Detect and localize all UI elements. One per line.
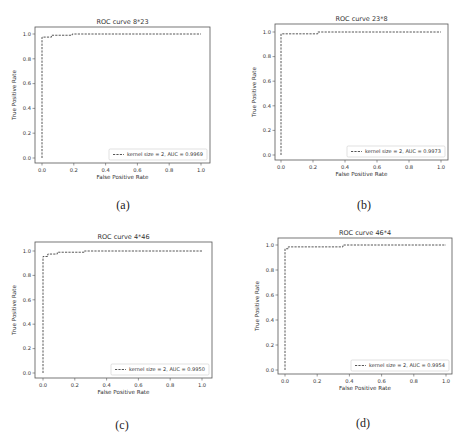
x-tick-label: 0.4 bbox=[345, 378, 354, 384]
legend-label: kernel size = 2, AUC = 0.9954 bbox=[369, 362, 445, 368]
x-axis-label: False Positive Rate bbox=[339, 385, 392, 391]
y-axis-label: True Positive Rate bbox=[254, 281, 260, 332]
y-tick-label: 0.8 bbox=[266, 267, 274, 273]
y-tick-label: 0.0 bbox=[266, 367, 274, 373]
x-tick-label: 0.2 bbox=[313, 378, 321, 384]
x-tick-label: 0.0 bbox=[281, 378, 289, 384]
roc-chart-d: ROC curve 46*40.00.20.40.60.81.00.00.20.… bbox=[0, 0, 469, 443]
x-tick-label: 1.0 bbox=[442, 378, 450, 384]
x-tick-label: 0.6 bbox=[377, 378, 385, 384]
x-tick-label: 0.8 bbox=[410, 378, 418, 384]
y-tick-label: 0.2 bbox=[266, 342, 274, 348]
y-tick-label: 0.4 bbox=[266, 317, 275, 323]
caption-d: (d) bbox=[343, 416, 383, 431]
chart-title: ROC curve 46*4 bbox=[339, 229, 391, 237]
y-tick-label: 0.6 bbox=[266, 292, 274, 298]
plot-frame bbox=[278, 238, 452, 374]
panel-d: ROC curve 46*40.00.20.40.60.81.00.00.20.… bbox=[0, 0, 469, 443]
y-tick-label: 1.0 bbox=[266, 242, 274, 248]
